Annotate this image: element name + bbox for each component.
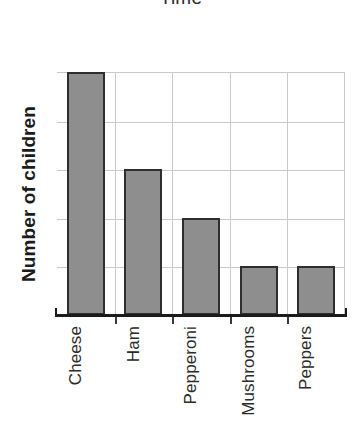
y-axis-label: Number of children: [18, 106, 40, 282]
x-axis-tick: [172, 317, 174, 324]
x-tick-label-container: Pepperoni: [180, 326, 202, 430]
x-tick-label-container: Mushrooms: [238, 326, 260, 430]
x-axis-tick: [230, 317, 232, 324]
x-axis-left-cap: [55, 308, 57, 317]
x-tick-label-ham: Ham: [124, 326, 144, 362]
bar-chart: Time Number of children CheeseHamPeppero…: [0, 0, 362, 433]
gridline-vertical: [230, 73, 231, 316]
x-axis-right-cap: [345, 308, 347, 317]
x-axis-tick: [115, 317, 117, 324]
x-axis-tick: [287, 317, 289, 324]
x-tick-label-peppers: Peppers: [296, 326, 316, 390]
gridline-vertical: [172, 73, 173, 316]
x-axis-line: [55, 314, 347, 317]
y-axis-label-container: Number of children: [16, 72, 42, 315]
bar-mushrooms: [240, 266, 278, 315]
chart-title: Time: [0, 0, 362, 9]
x-tick-label-container: Cheese: [65, 326, 87, 430]
gridline-vertical: [115, 73, 116, 316]
bar-pepperoni: [182, 218, 220, 315]
bar-peppers: [297, 266, 335, 315]
plot-area: [57, 72, 345, 315]
x-tick-label-mushrooms: Mushrooms: [239, 326, 259, 416]
bar-cheese: [67, 72, 105, 315]
x-tick-label-pepperoni: Pepperoni: [181, 326, 201, 404]
x-tick-label-container: Ham: [123, 326, 145, 430]
bar-ham: [124, 169, 162, 315]
x-tick-label-container: Peppers: [295, 326, 317, 430]
x-tick-label-cheese: Cheese: [66, 326, 86, 385]
gridline-vertical: [287, 73, 288, 316]
